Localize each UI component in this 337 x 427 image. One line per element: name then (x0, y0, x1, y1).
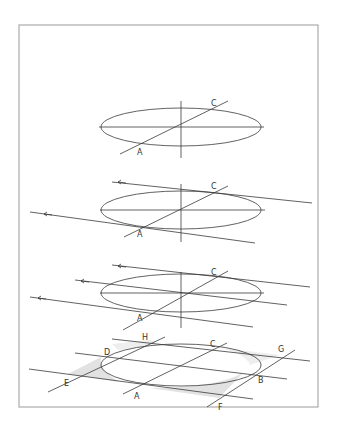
label-c: C (211, 99, 217, 108)
arrow-icon (44, 212, 52, 216)
label-a: A (137, 148, 143, 157)
label-f: F (218, 403, 223, 412)
ellipse (101, 344, 261, 386)
label-b: B (258, 376, 264, 385)
label-e: E (64, 379, 69, 388)
label-a: A (137, 314, 143, 323)
step-2-diagram (30, 180, 312, 243)
label-h: H (142, 333, 148, 342)
label-a: A (134, 392, 140, 401)
shaded-corner-e (68, 357, 120, 382)
tangent-through-a (30, 212, 255, 243)
label-d: D (104, 348, 110, 357)
arrow-icon (38, 296, 46, 300)
step-1-diagram (99, 101, 264, 158)
construction-figure: C A C A C A (0, 0, 337, 427)
step-3-diagram (30, 264, 310, 330)
page-frame (19, 25, 318, 407)
label-g: G (278, 345, 284, 354)
label-c: C (211, 182, 217, 191)
label-a: A (137, 230, 143, 239)
shaded-corner-g (214, 347, 280, 365)
label-c: C (211, 268, 217, 277)
step-4-diagram (29, 337, 310, 407)
label-c: C (210, 340, 216, 349)
